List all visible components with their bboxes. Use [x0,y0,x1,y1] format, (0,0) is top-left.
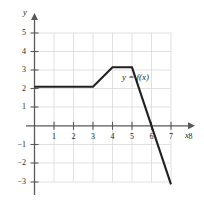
plot-canvas [0,0,204,208]
y-tick-label-minus-2: −2 [6,159,26,167]
y-tick-label-5: 5 [10,29,26,37]
function-graph-figure: y x 5 4 3 2 1 −1 −2 −3 1 2 3 4 5 6 7 8 y… [0,0,204,208]
y-tick-label-minus-1: −1 [6,141,26,149]
y-tick-label-2: 2 [10,85,26,93]
x-tick-label-4: 4 [106,133,120,141]
x-tick-label-1: 1 [47,133,61,141]
x-tick-label-3: 3 [86,133,100,141]
y-tick-label-minus-3: −3 [6,178,26,186]
y-axis-label: y [23,8,27,17]
y-tick-label-1: 1 [10,103,26,111]
x-tick-label-7: 7 [164,133,178,141]
grid-horizontal-lines [35,33,172,182]
x-axis [26,122,195,129]
x-tick-label-6: 6 [145,133,159,141]
function-annotation-label: y = f(x) [122,73,149,82]
grid-vertical-lines [35,33,172,182]
x-tick-label-8: 8 [184,133,198,141]
y-axis [31,13,38,195]
y-tick-label-3: 3 [10,66,26,74]
x-tick-label-5: 5 [125,133,139,141]
x-tick-label-2: 2 [67,133,81,141]
y-tick-label-4: 4 [10,48,26,56]
